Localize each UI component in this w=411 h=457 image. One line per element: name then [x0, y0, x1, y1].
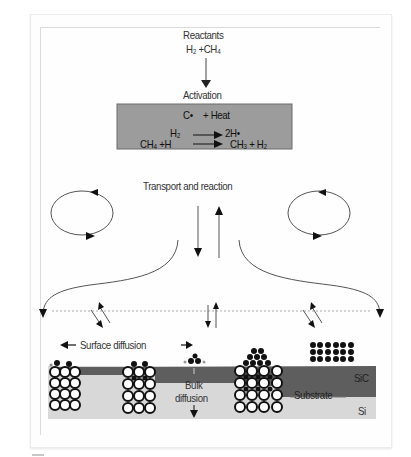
reactants-to-activation-arrow [201, 58, 211, 88]
center-adsorption-arrows [205, 302, 219, 328]
si-label: Si [358, 405, 366, 417]
sic-label: SiC [354, 372, 369, 384]
adatom-pair [184, 354, 206, 365]
surface-diffusion-label: Surface diffusion [80, 339, 146, 351]
activation-title: Activation [183, 89, 221, 101]
cvd-process-diagram [0, 0, 411, 457]
bulk-diffusion-label-1: Bulk [185, 379, 202, 391]
activation-line-2-left: H₂ [170, 127, 180, 139]
reactants-formula: H₂ +CH₄ [186, 43, 221, 55]
diagram-canvas: Reactants H₂ +CH₄ Activation C• + Heat H… [0, 0, 411, 457]
reactants-title: Reactants [183, 29, 223, 41]
surface-diffusion-left-arrow [60, 341, 76, 349]
right-recirculation-loop [288, 189, 350, 240]
left-recirculation-loop [51, 189, 113, 240]
left-flow-curve [39, 240, 178, 318]
surface-diffusion-right-arrow [181, 341, 193, 349]
left-adsorption-arrows [91, 302, 110, 328]
transport-up-arrow [215, 206, 223, 258]
transport-title: Transport and reaction [143, 180, 232, 192]
activation-line-3-left: CH₄ +H [140, 138, 171, 150]
bulk-diffusion-label-2: diffusion [175, 392, 208, 404]
atom-cluster-1 [50, 367, 80, 410]
activation-line-3-right: CH₃ + H₂ [230, 138, 267, 150]
transport-down-arrow [194, 206, 202, 257]
activation-line-1-right: + Heat [203, 109, 230, 121]
right-adsorption-arrows [303, 302, 322, 328]
substrate-label: Substrate [294, 389, 332, 401]
adatoms-cluster-1 [50, 360, 73, 367]
sic-island-cluster-4 [310, 342, 354, 362]
activation-line-1-left: C• [183, 109, 193, 121]
pyramid-adatoms-cluster-3 [243, 348, 271, 366]
